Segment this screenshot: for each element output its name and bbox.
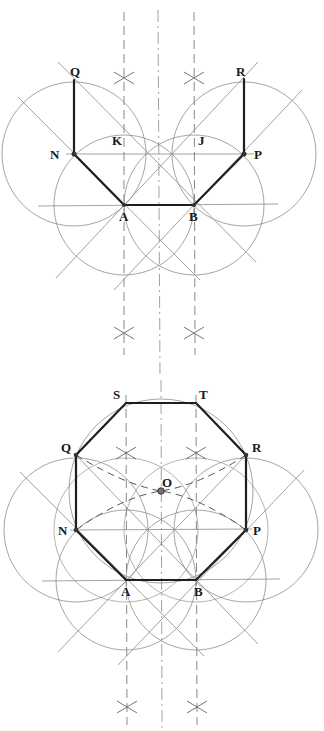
- bisector-mark-lower-right: [184, 327, 204, 339]
- point-b: [192, 203, 196, 207]
- top-figure: Q R N P K J A B: [2, 10, 316, 375]
- label-q: Q: [61, 440, 71, 455]
- label-p: P: [253, 523, 261, 538]
- center-axis-line: [161, 380, 162, 731]
- point-n: [74, 528, 79, 533]
- label-r: R: [236, 64, 246, 79]
- diagonal-through-r: [58, 455, 246, 652]
- label-s: S: [113, 387, 120, 402]
- label-a: A: [119, 209, 129, 224]
- diagonal-through-q: [58, 62, 256, 262]
- label-r: R: [252, 440, 262, 455]
- point-n: [72, 152, 77, 157]
- diagonal-through-p: [118, 470, 304, 665]
- label-j: J: [198, 133, 205, 148]
- diagonal-through-n: [20, 472, 204, 656]
- center-axis-line: [158, 10, 160, 375]
- point-q: [74, 453, 79, 458]
- label-b: B: [189, 209, 198, 224]
- label-n: N: [50, 147, 60, 162]
- label-q: Q: [70, 64, 80, 79]
- label-t: T: [199, 387, 208, 402]
- label-o: O: [162, 475, 172, 490]
- label-n: N: [58, 523, 68, 538]
- label-k: K: [112, 133, 123, 148]
- label-p: P: [254, 147, 262, 162]
- point-r: [244, 453, 249, 458]
- octagon-construction-diagram: Q R N P K J A B: [0, 0, 324, 731]
- vertical-dashed-line-b: [194, 12, 195, 355]
- label-b: B: [194, 584, 203, 599]
- line-np: [70, 529, 252, 530]
- vertical-dashed-line-a: [126, 395, 127, 725]
- bottom-figure: S T Q R O N P A B: [4, 380, 318, 731]
- label-a: A: [121, 584, 131, 599]
- point-p: [242, 152, 247, 157]
- vertical-dashed-line-b: [196, 395, 197, 725]
- point-p: [244, 528, 249, 533]
- point-a: [122, 203, 126, 207]
